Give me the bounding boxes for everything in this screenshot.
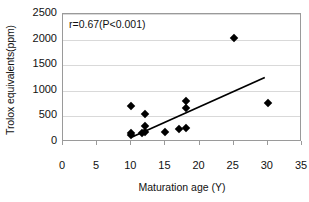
x-axis-label: Maturation age (Y) (62, 181, 302, 193)
x-tick-label: 10 (117, 160, 143, 171)
y-axis-label: Trolox equivalents(ppm) (0, 0, 20, 160)
y-tick-label: 1000 (19, 84, 57, 95)
y-tick-label: 500 (19, 109, 57, 120)
y-tick-label: 2000 (19, 33, 57, 44)
plot-area: r=0.67(P<0.001) (62, 13, 301, 141)
y-tick-label: 0 (19, 135, 57, 146)
x-tick-mark (267, 141, 268, 145)
x-tick-mark (130, 141, 131, 145)
x-tick-mark (233, 141, 234, 145)
x-tick-label: 15 (151, 160, 177, 171)
x-tick-label: 20 (186, 160, 212, 171)
trendline (63, 14, 300, 140)
x-tick-mark (62, 141, 63, 145)
x-tick-label: 0 (49, 160, 75, 171)
x-tick-label: 35 (288, 160, 309, 171)
x-tick-label: 25 (220, 160, 246, 171)
x-tick-mark (164, 141, 165, 145)
x-tick-mark (96, 141, 97, 145)
scatter-chart: Trolox equivalents(ppm) 0500100015002000… (0, 0, 309, 202)
x-tick-label: 5 (83, 160, 109, 171)
y-tick-label: 1500 (19, 58, 57, 69)
x-tick-label: 30 (254, 160, 280, 171)
x-tick-mark (199, 141, 200, 145)
x-tick-mark (301, 141, 302, 145)
y-tick-label: 2500 (19, 7, 57, 18)
